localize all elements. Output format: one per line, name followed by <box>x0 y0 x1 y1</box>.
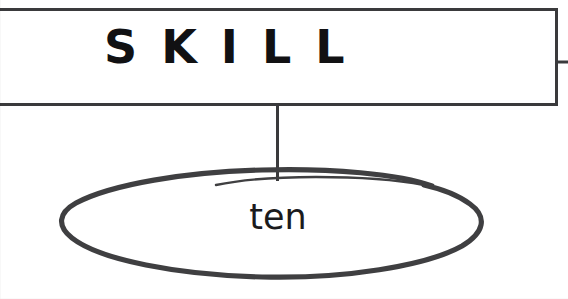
ten-node-label: ten <box>249 197 306 237</box>
diagram-vector-layer <box>0 0 568 299</box>
diagram-canvas: SKILL ten <box>0 0 568 299</box>
ten-node-label-wrapper: ten <box>0 200 568 235</box>
